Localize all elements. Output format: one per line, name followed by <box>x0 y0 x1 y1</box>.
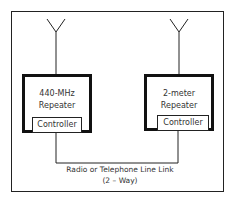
antenna-icon <box>47 19 65 75</box>
link-line <box>56 130 178 163</box>
antenna-icon <box>170 19 188 75</box>
link-label: Radio or Telephone Line Link <box>4 165 232 175</box>
link-direction-label: (2 – Way) <box>4 176 232 186</box>
controller-box: Controller <box>157 115 209 131</box>
repeater-title: 2-meter <box>147 88 211 99</box>
repeater-subtitle: Repeater <box>25 100 89 111</box>
controller-box: Controller <box>32 117 82 133</box>
repeater-title: 440-MHz <box>25 88 89 99</box>
repeater-440mhz: 440-MHz Repeater Controller <box>22 74 92 133</box>
repeater-subtitle: Repeater <box>147 100 211 111</box>
repeater-2meter: 2-meter Repeater Controller <box>144 74 214 131</box>
